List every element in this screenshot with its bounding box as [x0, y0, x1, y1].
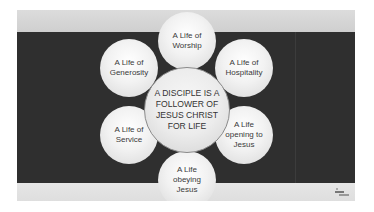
petal-obeying-label: A Life obeying Jesus — [173, 165, 201, 195]
center-label: A DISCIPLE IS A FOLLOWER OF JESUS CHRIST… — [155, 88, 220, 132]
petal-worship: A Life of Worship — [158, 12, 216, 70]
petal-service-label: A Life of Service — [115, 125, 144, 145]
petal-worship-label: A Life of Worship — [172, 31, 201, 51]
petal-hospitality-label: A Life of Hospitality — [226, 58, 263, 78]
petal-obeying-jesus: A Life obeying Jesus — [158, 151, 216, 201]
publisher-logo-icon — [335, 188, 349, 197]
faint-guide-line — [295, 32, 296, 183]
center-circle: A DISCIPLE IS A FOLLOWER OF JESUS CHRIST… — [144, 67, 230, 153]
petal-generosity-label: A Life of Generosity — [110, 58, 149, 78]
petal-opening-label: A Life opening to Jesus — [225, 120, 262, 150]
slide: A Life of Worship A Life of Generosity A… — [17, 10, 355, 201]
